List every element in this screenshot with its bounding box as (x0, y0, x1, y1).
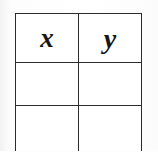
xy-value-table: x y (15, 13, 142, 151)
header-cell-y: y (79, 14, 142, 63)
table-row (16, 106, 142, 152)
cell-y-row-1[interactable] (79, 63, 142, 106)
page-canvas: x y (0, 0, 158, 151)
cell-y-row-2[interactable] (79, 106, 142, 152)
table-header-row: x y (16, 14, 142, 63)
header-cell-x: x (16, 14, 79, 63)
table-row (16, 63, 142, 106)
cell-x-row-2[interactable] (16, 106, 79, 152)
column-header-y-label: y (79, 16, 141, 62)
cell-x-row-1[interactable] (16, 63, 79, 106)
column-header-x-label: x (16, 15, 78, 61)
